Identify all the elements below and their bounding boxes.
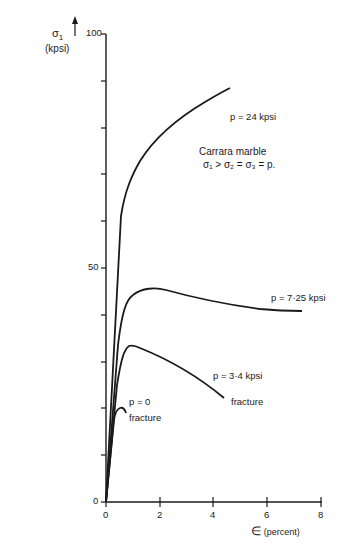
x-tick-4: 4: [210, 509, 215, 520]
y-symbol: σ: [52, 27, 59, 39]
chart-canvas: [0, 0, 342, 545]
x-axis-label: ∈ (percent): [251, 524, 300, 538]
label-p24: p = 24 kpsi: [230, 111, 276, 122]
x-tick-6: 6: [264, 509, 269, 520]
x-tick-2: 2: [157, 509, 162, 520]
label-fracture-p0: fracture: [129, 412, 161, 423]
x-symbol: ∈: [251, 524, 261, 538]
annotation-stress-condition: σ₁ > σ₂ = σ₃ = p.: [203, 159, 275, 170]
y-axis-arrow-icon: [72, 16, 78, 36]
y-tick-100: 100: [86, 27, 102, 38]
annotation-material: Carrara marble: [199, 146, 266, 157]
x-tick-0: 0: [103, 509, 108, 520]
y-ticks: [101, 34, 106, 502]
y-tick-0: 0: [93, 495, 98, 506]
label-p34: p = 3·4 kpsi: [213, 370, 262, 381]
y-axis-unit: (kpsi): [45, 43, 69, 54]
label-p0: p = 0: [129, 396, 150, 407]
label-fracture-p34: fracture: [231, 396, 263, 407]
curve-p34: [106, 346, 224, 502]
label-p725: p = 7·25 kpsi: [271, 292, 326, 303]
y-subscript: 1: [59, 33, 63, 42]
x-tick-8: 8: [318, 509, 323, 520]
x-unit: (percent): [264, 527, 300, 537]
y-tick-50: 50: [88, 261, 99, 272]
y-axis-label: σ1: [52, 27, 63, 42]
